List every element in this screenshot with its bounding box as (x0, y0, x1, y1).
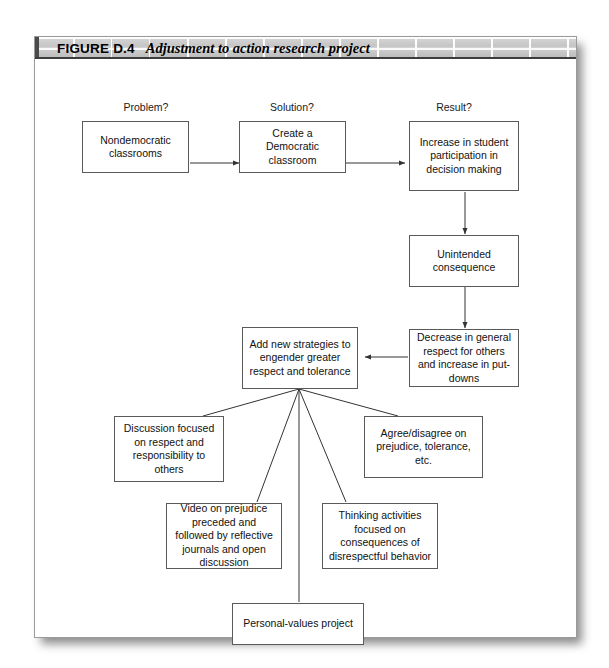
node-label: Discussion focused on respect and respon… (120, 422, 218, 476)
figure-root: FIGURE D.4 Adjustment to action research… (0, 0, 609, 668)
node-label: Personal-values project (243, 617, 353, 631)
node-agree-disagree-prejudice[interactable]: Agree/disagree on prejudice, tolerance, … (364, 416, 483, 478)
node-decrease-general-respect[interactable]: Decrease in general respect for others a… (409, 329, 519, 387)
figure-page: FIGURE D.4 Adjustment to action research… (34, 36, 577, 638)
column-label-result: Result? (410, 101, 498, 113)
figure-caption: Adjustment to action research project (146, 40, 370, 57)
node-label: Decrease in general respect for others a… (415, 331, 513, 385)
node-video-on-prejudice[interactable]: Video on prejudice preceded and followed… (166, 503, 282, 569)
figure-number: FIGURE D.4 (57, 41, 135, 56)
node-discussion-focused-respect[interactable]: Discussion focused on respect and respon… (114, 416, 224, 482)
node-increase-student-participation[interactable]: Increase in student participation in dec… (409, 121, 519, 191)
node-personal-values-project[interactable]: Personal-values project (232, 603, 364, 645)
node-label: Create a Democratic classroom (245, 127, 340, 168)
node-label: Unintended consequence (415, 248, 513, 275)
column-label-solution: Solution? (248, 101, 336, 113)
column-label-problem: Problem? (102, 101, 190, 113)
diagram-canvas: Problem? Solution? Result? Nondemocratic… (35, 59, 576, 637)
node-unintended-consequence[interactable]: Unintended consequence (409, 235, 519, 287)
figure-header-title: FIGURE D.4 Adjustment to action research… (49, 37, 378, 59)
node-add-new-strategies[interactable]: Add new strategies to engender greater r… (242, 327, 358, 389)
figure-header-band: FIGURE D.4 Adjustment to action research… (35, 37, 576, 59)
node-create-democratic-classroom[interactable]: Create a Democratic classroom (239, 121, 346, 173)
node-label: Video on prejudice preceded and followed… (172, 502, 276, 570)
node-label: Thinking activities focused on consequen… (328, 509, 432, 563)
node-thinking-activities[interactable]: Thinking activities focused on consequen… (322, 503, 438, 569)
node-label: Nondemocratic classrooms (88, 134, 183, 161)
node-label: Add new strategies to engender greater r… (248, 338, 352, 379)
header-left-accent (35, 37, 39, 57)
node-nondemocratic-classrooms[interactable]: Nondemocratic classrooms (82, 121, 189, 173)
node-label: Increase in student participation in dec… (415, 136, 513, 177)
node-label: Agree/disagree on prejudice, tolerance, … (370, 427, 477, 468)
